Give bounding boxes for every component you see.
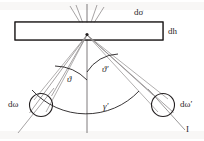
scattering-vertex (85, 33, 88, 36)
left-cone-edge-outer (30, 35, 88, 113)
right-solid-angle-cone (87, 35, 185, 130)
incident-beam-line (148, 89, 185, 130)
scattering-geometry-figure: dσ dh dω dω′ ϑ ϑ′ γ′ I (0, 0, 204, 141)
label-d-h: dh (168, 27, 177, 36)
right-cone-edge-inner (87, 35, 153, 95)
left-cone-edge-inner (52, 35, 88, 96)
label-d-omega-prime: dω′ (180, 100, 192, 109)
right-cone-mid-ray-b (87, 35, 158, 112)
right-cone-mid-ray-a (87, 35, 168, 99)
left-cone-mid-ray-a (34, 35, 87, 100)
label-theta: ϑ (67, 75, 71, 84)
gamma-prime-angle-arc (32, 90, 139, 114)
label-beam-I: I (186, 125, 189, 134)
label-theta-prime: ϑ′ (102, 65, 108, 74)
label-d-omega: dω (8, 100, 18, 109)
left-solid-angle-cone (18, 35, 87, 133)
label-d-sigma: dσ (134, 8, 143, 17)
label-gamma-prime: γ′ (103, 102, 109, 111)
